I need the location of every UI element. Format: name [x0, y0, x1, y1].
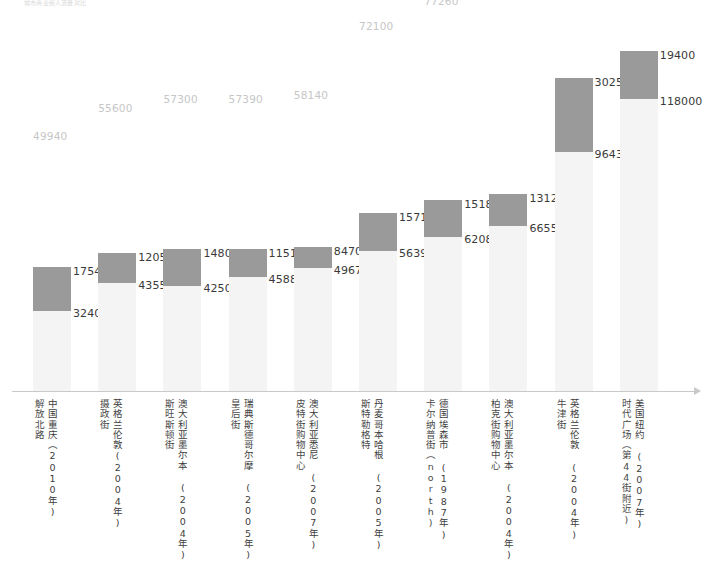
x-tick-place-name: 德国埃森市 (1987年) [438, 399, 449, 540]
bar-segment-bottom[interactable]: 43550 [98, 283, 136, 391]
x-tick-street-name: 牛津街 [556, 399, 567, 540]
x-tick-label: 皮特街购物中心澳大利亚悉尼 (2007年) [288, 399, 326, 550]
x-tick-label: 卡尔纳普街（north)德国埃森市 (1987年) [418, 399, 456, 540]
bar-segment-bottom[interactable]: 49670 [294, 268, 332, 391]
x-tick-street-name: 柏克街购物中心 [490, 399, 501, 561]
x-tick-place-name: 英格兰伦敦 (2004年) [569, 399, 580, 540]
x-tick-label: 牛津街英格兰伦敦 (2004年) [549, 399, 587, 540]
bar-segment-top[interactable]: 12050 [98, 253, 136, 283]
x-tick-label: 时代广场（第44街附近)美国纽约 (2007年) [614, 399, 652, 530]
bar-segment-bottom[interactable]: 66550 [489, 226, 527, 391]
x-tick-place-name: 中国重庆（2010年) [47, 399, 58, 517]
x-tick-label: 解放北路中国重庆（2010年) [27, 399, 65, 517]
bar-segment-top[interactable]: 30250 [555, 78, 593, 153]
x-tick-place-name: 丹麦哥本哈根 (2005年) [373, 399, 384, 550]
bar-group[interactable]: 772601518062080 [424, 200, 462, 391]
bar-group[interactable]: 1266803025096430 [555, 78, 593, 391]
bar-segment-top-value: 8470 [334, 245, 362, 258]
bar-segment-bottom[interactable]: 56390 [359, 251, 397, 391]
x-tick-street-name: 斯特勒格特 [360, 399, 371, 550]
bar-group[interactable]: 137400 *19400118000 [620, 51, 658, 391]
x-tick-place-name: 澳大利亚墨尔本 (2004年) [177, 399, 188, 561]
bar-segment-bottom[interactable]: 62080 [424, 237, 462, 391]
x-tick-place-name: 瑞典斯德哥尔摩 (2005年) [243, 399, 254, 561]
x-tick-street-name: 皮特街购物中心 [295, 399, 306, 550]
bar-total-label: 72100 [359, 20, 393, 32]
bar-group[interactable]: 573901151045880 [229, 249, 267, 391]
x-axis-line [12, 391, 696, 392]
bar-total-label: 57390 [229, 93, 263, 105]
bar-group[interactable]: 58140847049670 [294, 247, 332, 391]
bar-segment-top[interactable]: 17540 [33, 267, 71, 310]
bar-group[interactable]: 573001480042500 [163, 249, 201, 391]
x-tick-place-name: 澳大利亚墨尔本 (2004年) [503, 399, 514, 561]
x-tick-label: 摄政街英格兰伦敦(2004年) [92, 399, 130, 529]
x-tick-label: 斯旺斯顿街澳大利亚墨尔本 (2004年) [157, 399, 195, 561]
bar-segment-bottom[interactable]: 96430 [555, 152, 593, 391]
bar-total-label: 49940 [33, 130, 67, 142]
bar-segment-bottom[interactable]: 42500 [163, 286, 201, 391]
bar-group[interactable]: 796701312066550 [489, 194, 527, 391]
bar-group[interactable]: 499401754032400 [33, 267, 71, 391]
bar-segment-bottom[interactable]: 45880 [229, 277, 267, 391]
bar-segment-top[interactable]: 19400 [620, 51, 658, 99]
x-tick-street-name: 摄政街 [99, 399, 110, 529]
bar-group[interactable]: 556001205043550 [98, 253, 136, 391]
x-tick-street-name: 解放北路 [34, 399, 45, 517]
bar-segment-top[interactable]: 14800 [163, 249, 201, 286]
bar-total-label: 58140 [294, 89, 328, 101]
bar-segment-top[interactable]: 15710 [359, 213, 397, 252]
bar-segment-top[interactable]: 13120 [489, 194, 527, 226]
bar-segment-top[interactable]: 15180 [424, 200, 462, 238]
x-tick-place-name: 澳大利亚悉尼 (2007年) [308, 399, 319, 550]
bar-total-label: 77260 [424, 0, 458, 7]
bar-group[interactable]: 721001571056390 [359, 213, 397, 391]
x-tick-label: 皇后街瑞典斯德哥尔摩 (2005年) [223, 399, 261, 561]
x-tick-street-name: 时代广场（第44街附近) [621, 399, 632, 530]
bar-total-label: 55600 [98, 102, 132, 114]
x-tick-label: 斯特勒格特丹麦哥本哈根 (2005年) [353, 399, 391, 550]
bar-segment-bottom-value: 118000 [660, 95, 703, 108]
x-tick-label: 柏克街购物中心澳大利亚墨尔本 (2004年) [483, 399, 521, 561]
bar-segment-top[interactable]: 8470 [294, 247, 332, 268]
bar-segment-top-value: 19400 [660, 49, 696, 62]
bar-segment-bottom[interactable]: 118000 [620, 99, 658, 391]
bar-segment-bottom[interactable]: 32400 [33, 311, 71, 391]
x-tick-street-name: 皇后街 [230, 399, 241, 561]
bar-total-label: 57300 [163, 93, 197, 105]
axis-arrow-right-icon [694, 387, 701, 395]
x-tick-place-name: 美国纽约 (2007年) [634, 399, 645, 530]
bar-segment-top[interactable]: 11510 [229, 249, 267, 277]
x-tick-street-name: 卡尔纳普街（north) [425, 399, 436, 540]
x-tick-place-name: 英格兰伦敦(2004年) [112, 399, 123, 529]
x-tick-street-name: 斯旺斯顿街 [164, 399, 175, 561]
